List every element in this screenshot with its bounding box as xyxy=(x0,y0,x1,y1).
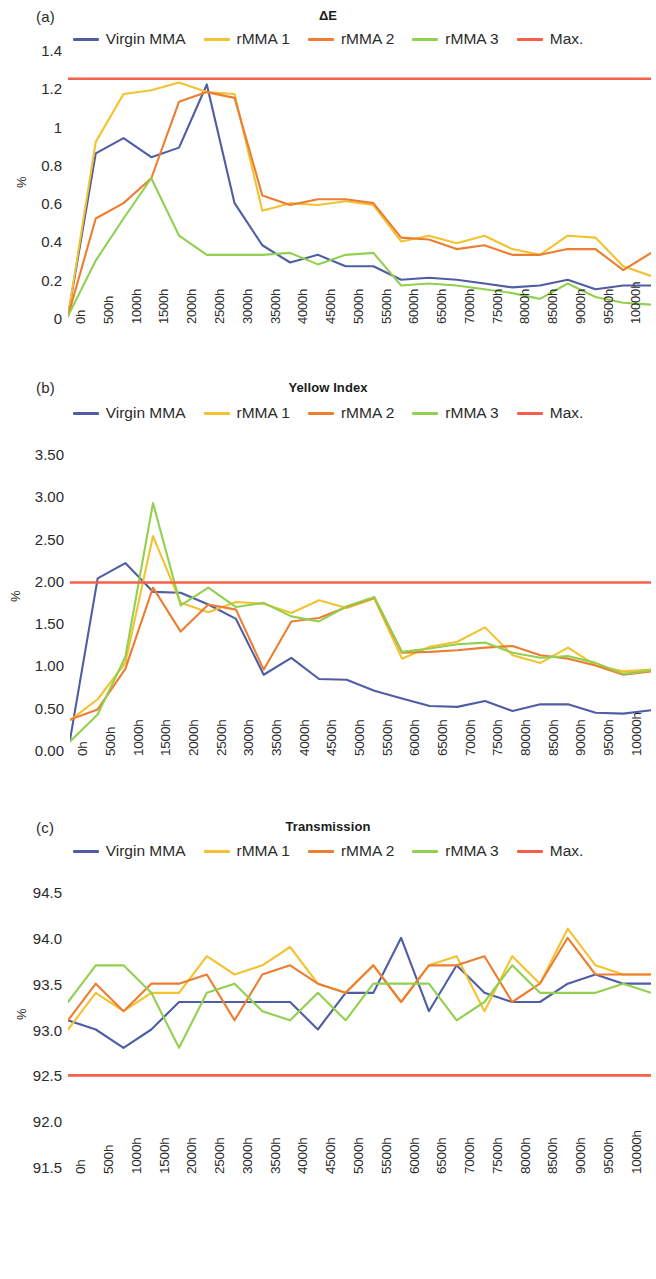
x-tick-label: 3500h xyxy=(268,1137,283,1174)
x-tick-label: 0h xyxy=(75,741,90,756)
legend-label-rmma-2: rMMA 2 xyxy=(341,404,394,422)
x-tick-label: 2000h xyxy=(184,1137,199,1174)
x-tick-label: 7500h xyxy=(490,719,505,756)
legend-item-rmma-3[interactable]: rMMA 3 xyxy=(403,404,507,422)
legend-label-virgin-mma: Virgin MMA xyxy=(106,842,186,860)
legend-label-rmma-3: rMMA 3 xyxy=(445,842,498,860)
x-axis-ticks-c: 0h500h1000h1500h2000h2500h3000h3500h4000… xyxy=(68,1172,651,1224)
legend-item-rmma-1[interactable]: rMMA 1 xyxy=(195,842,299,860)
y-tick-label: 92.0 xyxy=(33,1114,62,1129)
legend-label-max: Max. xyxy=(550,30,584,48)
x-tick-label: 7000h xyxy=(462,1137,477,1174)
panel-title-b: Yellow Index xyxy=(0,380,656,395)
y-tick-label: 92.5 xyxy=(33,1068,62,1083)
legend-label-max: Max. xyxy=(550,842,584,860)
legend-item-virgin-mma[interactable]: Virgin MMA xyxy=(64,842,195,860)
x-tick-label: 6000h xyxy=(406,289,421,324)
x-tick-label: 10000h xyxy=(628,282,643,324)
x-tick-label: 8000h xyxy=(518,1137,533,1174)
panel-title-a: ΔE xyxy=(0,8,656,23)
y-tick-label: 1.4 xyxy=(41,43,62,58)
legend-b: Virgin MMA rMMA 1 rMMA 2 rMMA 3 Max. xyxy=(0,404,656,422)
y-tick-label: 3.50 xyxy=(35,447,64,462)
x-tick-label: 5500h xyxy=(379,1137,394,1174)
x-tick-label: 10000h xyxy=(629,1130,644,1174)
legend-label-rmma-2: rMMA 2 xyxy=(341,842,394,860)
x-axis-ticks-a: 0h500h1000h1500h2000h2500h3000h3500h4000… xyxy=(68,322,651,368)
legend-item-rmma-2[interactable]: rMMA 2 xyxy=(299,842,403,860)
y-tick-label: 0.6 xyxy=(41,196,62,211)
x-tick-label: 10000h xyxy=(629,712,644,756)
legend-item-rmma-3[interactable]: rMMA 3 xyxy=(403,30,507,48)
legend-swatch-rmma-3 xyxy=(412,412,438,415)
y-tick-label: 1.00 xyxy=(35,658,64,673)
x-tick-label: 6000h xyxy=(407,1137,422,1174)
x-tick-label: 6500h xyxy=(434,1137,449,1174)
x-tick-label: 4000h xyxy=(295,289,310,324)
x-tick-label: 500h xyxy=(101,296,116,324)
x-tick-label: 9000h xyxy=(573,1137,588,1174)
legend-label-rmma-1: rMMA 1 xyxy=(237,842,290,860)
y-tick-label: 0.8 xyxy=(41,158,62,173)
x-tick-label: 1000h xyxy=(129,1137,144,1174)
legend-label-rmma-3: rMMA 3 xyxy=(445,404,498,422)
x-tick-label: 2000h xyxy=(186,719,201,756)
y-tick-label: 1 xyxy=(54,120,62,135)
legend-item-rmma-2[interactable]: rMMA 2 xyxy=(299,30,403,48)
legend-item-rmma-1[interactable]: rMMA 1 xyxy=(195,30,299,48)
x-axis-ticks-b: 0h500h1000h1500h2000h2500h3000h3500h4000… xyxy=(70,754,651,806)
panel-title-c: Transmission xyxy=(0,819,656,834)
x-tick-label: 9500h xyxy=(601,289,616,324)
x-tick-label: 7000h xyxy=(463,719,478,756)
x-tick-label: 4000h xyxy=(297,719,312,756)
x-tick-label: 3000h xyxy=(240,289,255,324)
plot-area-yellow-index xyxy=(70,454,651,750)
legend-item-virgin-mma[interactable]: Virgin MMA xyxy=(64,30,195,48)
x-tick-label: 4000h xyxy=(295,1137,310,1174)
x-tick-label: 8500h xyxy=(545,1137,560,1174)
y-tick-label: 91.5 xyxy=(33,1160,62,1175)
panel-delta-e: (a) ΔE Virgin MMA rMMA 1 rMMA 2 rMMA 3 M… xyxy=(0,0,656,370)
legend-item-virgin-mma[interactable]: Virgin MMA xyxy=(64,404,195,422)
legend-label-virgin-mma: Virgin MMA xyxy=(106,30,186,48)
y-tick-label: 1.50 xyxy=(35,616,64,631)
legend-item-max[interactable]: Max. xyxy=(508,842,593,860)
y-axis-ticks-a: 00.20.40.60.811.21.4 xyxy=(14,50,62,315)
legend-item-max[interactable]: Max. xyxy=(508,30,593,48)
x-tick-label: 1500h xyxy=(156,289,171,324)
legend-item-rmma-1[interactable]: rMMA 1 xyxy=(195,404,299,422)
x-tick-label: 4500h xyxy=(323,289,338,324)
x-tick-label: 2500h xyxy=(212,1137,227,1174)
x-tick-label: 8000h xyxy=(517,289,532,324)
x-tick-label: 6500h xyxy=(435,719,450,756)
legend-item-rmma-3[interactable]: rMMA 3 xyxy=(403,842,507,860)
x-tick-label: 1500h xyxy=(158,719,173,756)
x-tick-label: 5000h xyxy=(351,289,366,324)
plot-area-delta-e xyxy=(68,50,651,318)
x-tick-label: 2000h xyxy=(184,289,199,324)
x-tick-label: 3000h xyxy=(241,719,256,756)
legend-swatch-rmma-1 xyxy=(204,38,230,41)
y-tick-label: 0.2 xyxy=(41,273,62,288)
y-tick-label: 2.00 xyxy=(35,574,64,589)
x-tick-label: 2500h xyxy=(212,289,227,324)
x-tick-label: 8000h xyxy=(518,719,533,756)
x-tick-label: 3500h xyxy=(268,289,283,324)
legend-item-max[interactable]: Max. xyxy=(508,404,593,422)
legend-swatch-rmma-2 xyxy=(308,412,334,415)
x-tick-label: 8500h xyxy=(546,719,561,756)
x-tick-label: 5500h xyxy=(379,289,394,324)
x-tick-label: 9000h xyxy=(573,289,588,324)
y-tick-label: 3.00 xyxy=(35,489,64,504)
series-line-rmma-2 xyxy=(70,588,651,720)
x-tick-label: 6500h xyxy=(434,289,449,324)
y-axis-ticks-c: 91.592.092.593.093.594.094.5 xyxy=(14,892,62,1164)
legend-swatch-rmma-3 xyxy=(412,850,438,853)
series-line-rmma-1 xyxy=(70,536,651,720)
legend-item-rmma-2[interactable]: rMMA 2 xyxy=(299,404,403,422)
y-tick-label: 0.50 xyxy=(35,701,64,716)
legend-label-max: Max. xyxy=(550,404,584,422)
series-line-rmma-3 xyxy=(70,503,651,741)
plot-area-transmission xyxy=(68,892,651,1167)
legend-label-rmma-3: rMMA 3 xyxy=(445,30,498,48)
